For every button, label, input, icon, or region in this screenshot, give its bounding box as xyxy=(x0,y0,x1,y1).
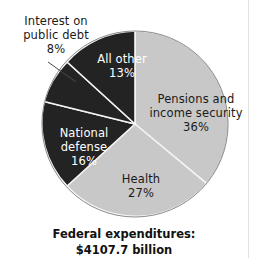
slice-value-all-other: 13% xyxy=(84,66,160,80)
slice-value-pensions: 36% xyxy=(140,120,252,134)
slice-label-interest-line1: Interest on xyxy=(24,14,87,28)
slice-value-national-defense: 16% xyxy=(48,154,120,168)
slice-label-national-defense-line2: defense xyxy=(61,140,108,154)
slice-label-interest-line2: public debt xyxy=(23,28,89,42)
slice-label-national-defense: National defense 16% xyxy=(48,126,120,168)
slice-label-pensions-line1: Pensions and xyxy=(158,92,235,106)
slice-label-pensions-line2: income security xyxy=(149,106,242,120)
slice-label-all-other: All other 13% xyxy=(84,52,160,80)
pie-chart-figure: Pensions and income security 36% Health … xyxy=(0,0,259,258)
slice-label-health: Health 27% xyxy=(106,172,176,200)
slice-value-interest: 8% xyxy=(4,42,108,56)
chart-caption: Federal expenditures: $4107.7 billion xyxy=(0,227,248,258)
caption-total-label: Federal expenditures: xyxy=(53,227,196,241)
slice-value-health: 27% xyxy=(106,186,176,200)
slice-label-pensions: Pensions and income security 36% xyxy=(140,92,252,134)
slice-label-interest-on-public-debt: Interest on public debt 8% xyxy=(4,14,108,56)
slice-label-national-defense-line1: National xyxy=(60,126,109,140)
caption-total-value: $4107.7 billion xyxy=(0,243,248,258)
slice-label-health-line1: Health xyxy=(122,172,160,186)
